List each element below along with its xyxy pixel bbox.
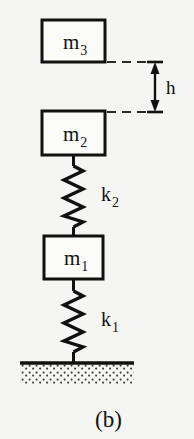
gap-dimension-h-label: h [166, 77, 176, 98]
spring-mass-diagram: m3 h m2 k2 m1 [0, 0, 194, 439]
hatched-ground [20, 363, 134, 384]
hatched-ground-fill [20, 364, 134, 384]
mass-block-m1-subscript: 1 [81, 259, 88, 274]
figure-caption: (b) [95, 407, 122, 432]
mass-block-m3-subscript: 3 [80, 43, 87, 58]
spring-k2-coil [64, 166, 83, 227]
gap-dimension-h-arrowhead-down [151, 100, 160, 112]
mass-block-m3: m3 [42, 20, 105, 62]
spring-k1-label: k1 [101, 308, 119, 335]
mass-block-m2-subscript: 2 [80, 135, 87, 150]
spring-k1-subscript: 1 [112, 320, 119, 335]
mass-block-m1: m1 [44, 236, 103, 279]
spring-k1-coil [64, 291, 83, 352]
gap-dimension-h: h [147, 62, 176, 112]
mass-block-m2: m2 [42, 111, 105, 155]
gap-dimension-h-arrowhead-up [151, 62, 160, 74]
figure-container: m3 h m2 k2 m1 [0, 0, 194, 439]
spring-k2-label: k2 [101, 183, 119, 210]
spring-k2: k2 [64, 155, 119, 236]
spring-k1: k1 [64, 279, 119, 363]
spring-k2-subscript: 2 [112, 195, 119, 210]
